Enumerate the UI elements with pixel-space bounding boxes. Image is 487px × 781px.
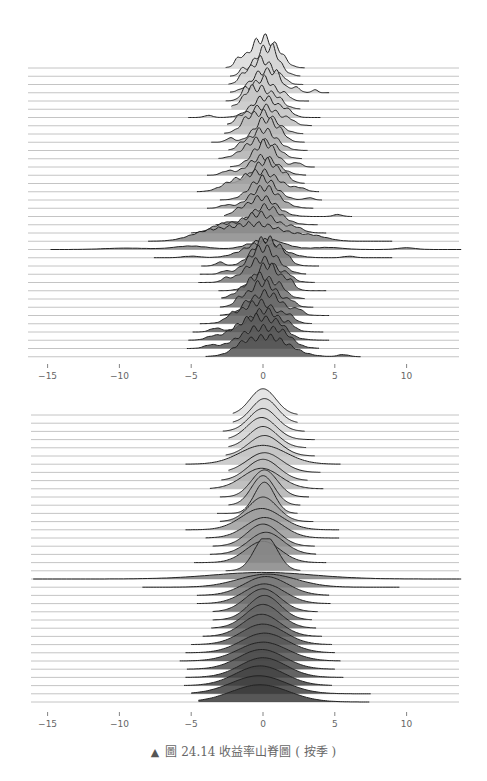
x-axis-tick-label: 10 <box>401 719 413 729</box>
ridgeline-chart-top: −15−10−50510 <box>0 0 487 390</box>
x-axis-tick-label: −5 <box>185 719 198 729</box>
figure-caption: ▲圖 24.14 收益率山脊圖 ( 按季 ) <box>0 742 487 759</box>
x-axis-tick-label: −15 <box>38 719 57 729</box>
x-axis-tick-label: 0 <box>260 719 266 729</box>
triangle-marker-icon: ▲ <box>151 746 159 759</box>
x-axis-tick-label: 5 <box>332 719 338 729</box>
x-axis-tick-label: −10 <box>110 719 129 729</box>
ridgeline-plot-area-bottom: −15−10−50510 <box>0 380 487 740</box>
caption-text: 圖 24.14 收益率山脊圖 ( 按季 ) <box>165 745 336 759</box>
ridgeline-chart-bottom: −15−10−50510 <box>0 380 487 740</box>
ridgeline-plot-area-top: −15−10−50510 <box>0 0 487 390</box>
